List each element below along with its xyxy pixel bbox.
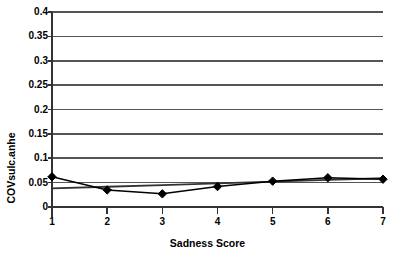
plot-area bbox=[0, 0, 399, 263]
x-axis-title-text: Sadness Score bbox=[170, 237, 245, 249]
x-axis-title: Sadness Score bbox=[0, 237, 399, 249]
chart-container: COVsulc.anhe 00.050.10.150.20.250.30.350… bbox=[0, 0, 399, 263]
data-point-markers bbox=[48, 173, 387, 198]
gridlines bbox=[52, 12, 383, 183]
x-axis-ticks bbox=[52, 207, 383, 214]
